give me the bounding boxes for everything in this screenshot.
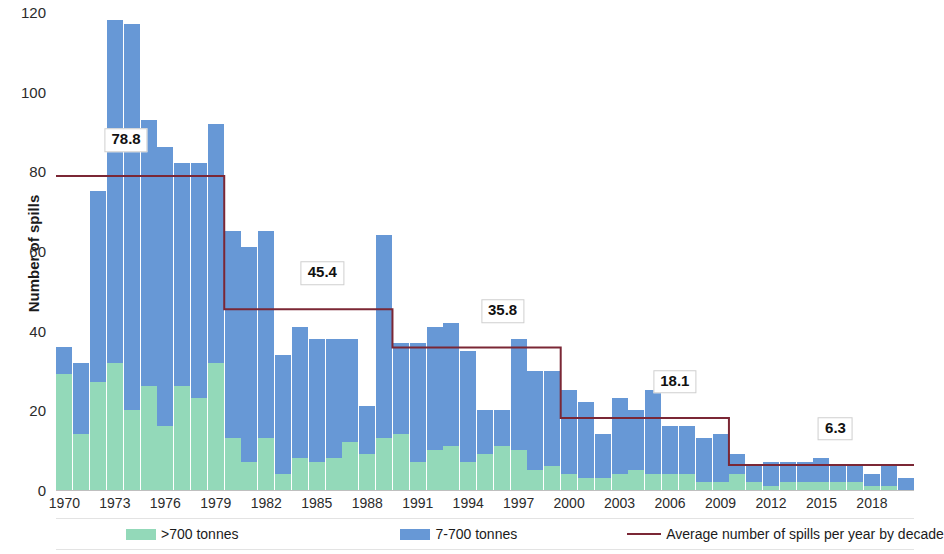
x-axis-tick-label: 1997	[503, 495, 534, 511]
y-axis-tick-label: 120	[6, 4, 46, 21]
x-axis-tick-label: 2009	[705, 495, 736, 511]
x-axis-tick-label: 1988	[352, 495, 383, 511]
legend-swatch-icon	[400, 529, 430, 540]
decade-average-callout: 6.3	[818, 417, 853, 441]
y-axis-tick-label: 40	[6, 322, 46, 339]
legend-item[interactable]: Average number of spills per year by dec…	[627, 519, 944, 549]
legend-swatch-icon	[126, 529, 156, 540]
x-axis-tick-label: 1991	[402, 495, 433, 511]
chart-legend: >700 tonnes7-700 tonnesAverage number of…	[56, 518, 914, 550]
decade-average-callout: 78.8	[105, 128, 148, 152]
y-axis-tick-label: 60	[6, 243, 46, 260]
legend-label: Average number of spills per year by dec…	[666, 526, 944, 542]
x-axis-tick-label: 2006	[654, 495, 685, 511]
decade-average-callout: 45.4	[301, 261, 344, 285]
legend-label: >700 tonnes	[161, 526, 238, 542]
x-axis-tick-label: 1973	[99, 495, 130, 511]
legend-label: 7-700 tonnes	[435, 526, 517, 542]
x-axis-tick-label: 2012	[755, 495, 786, 511]
x-axis-tick-label: 1970	[49, 495, 80, 511]
x-axis-tick-label: 2000	[554, 495, 585, 511]
x-axis-tick-label: 2015	[806, 495, 837, 511]
legend-line-marker-icon	[627, 533, 661, 535]
legend-item[interactable]: >700 tonnes	[126, 519, 238, 549]
x-axis-tick-label: 1979	[200, 495, 231, 511]
y-axis-tick-label: 20	[6, 402, 46, 419]
legend-item[interactable]: 7-700 tonnes	[400, 519, 517, 549]
decade-average-callout: 35.8	[481, 300, 524, 324]
x-axis-baseline	[56, 490, 914, 491]
average-line-overlay	[56, 12, 914, 490]
x-axis-tick-label: 1982	[251, 495, 282, 511]
decade-average-callout: 18.1	[653, 370, 696, 394]
x-axis-tick-label: 1976	[150, 495, 181, 511]
y-axis-tick-label: 80	[6, 163, 46, 180]
y-axis-tick-label: 100	[6, 83, 46, 100]
x-axis-tick-label: 2018	[856, 495, 887, 511]
x-axis-tick-label: 1994	[453, 495, 484, 511]
x-axis-tick-label: 2003	[604, 495, 635, 511]
y-axis-tick-label: 0	[6, 482, 46, 499]
x-axis-tick-label: 1985	[301, 495, 332, 511]
